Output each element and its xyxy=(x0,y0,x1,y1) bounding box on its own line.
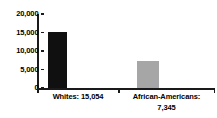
category-label-whites: Whites: 15,054 xyxy=(38,92,118,103)
category-label-african-americans: African-Americans: 7,345 xyxy=(119,92,214,113)
y-tick-label-15000: 15,000 xyxy=(16,29,40,37)
y-tick-label-10000: 10,000 xyxy=(16,47,40,55)
bar-whites xyxy=(48,32,67,88)
y-tick-mark-10000 xyxy=(41,50,45,52)
y-tick-mark-20000 xyxy=(41,13,45,15)
category-label-african-americans-line1: African-Americans: xyxy=(133,92,200,101)
y-tick-label-20000: 20,000 xyxy=(16,10,40,18)
y-tick-mark-15000 xyxy=(41,32,45,34)
category-label-african-americans-line2: 7,345 xyxy=(157,103,175,112)
x-axis-line xyxy=(37,88,215,90)
bar-chart: 20,000 15,000 10,000 5,000 0 Whites: 15,… xyxy=(0,0,217,118)
y-tick-mark-5000 xyxy=(41,69,45,71)
category-label-whites-text: Whites: 15,054 xyxy=(53,92,104,101)
y-tick-label-5000: 5,000 xyxy=(20,66,40,74)
bar-african-americans xyxy=(137,61,159,88)
